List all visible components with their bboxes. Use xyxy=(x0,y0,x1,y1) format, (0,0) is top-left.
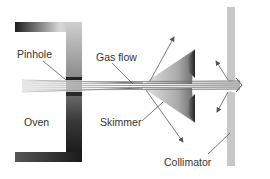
skimmer-label: Skimmer xyxy=(100,117,141,128)
collimator xyxy=(227,7,235,166)
collimator-leader xyxy=(208,133,230,154)
pinhole-label: Pinhole xyxy=(17,49,52,60)
skimmer-leader xyxy=(142,102,163,121)
skimmer xyxy=(143,49,195,123)
gas-flow-leader xyxy=(112,63,133,84)
molecular-beam-diagram: Pinhole Gas flow Oven Skimmer Collimator xyxy=(0,0,270,179)
pinhole-leader xyxy=(43,61,66,80)
pinhole xyxy=(66,77,82,96)
oven-label: Oven xyxy=(24,117,49,128)
collimator-label: Collimator xyxy=(164,157,211,168)
gas-flow-label: Gas flow xyxy=(96,52,137,63)
